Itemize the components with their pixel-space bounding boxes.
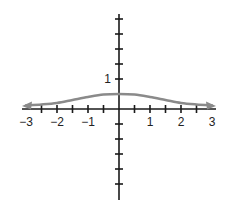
x-tick-label: 3 (209, 115, 216, 129)
x-tick-label: −3 (19, 115, 33, 129)
y-tick-label: 1 (104, 72, 111, 86)
x-tick-label: −2 (50, 115, 64, 129)
axes (22, 14, 216, 200)
tick-labels: −3−2−11231 (19, 72, 216, 129)
x-tick-label: 2 (178, 115, 185, 129)
x-tick-label: −1 (81, 115, 95, 129)
function-graph: −3−2−11231 (0, 0, 228, 205)
x-tick-label: 1 (147, 115, 154, 129)
